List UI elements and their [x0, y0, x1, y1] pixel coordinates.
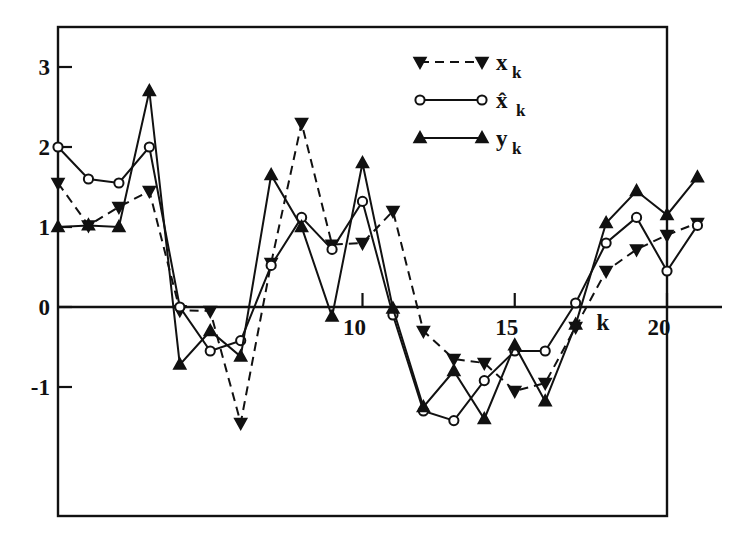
data-point-circle — [449, 416, 458, 425]
data-point-circle — [327, 245, 336, 254]
data-point-circle — [358, 197, 367, 206]
data-point-circle — [693, 221, 702, 230]
legend-subscript: k — [512, 139, 522, 158]
x-tick-label: 10 — [343, 315, 366, 340]
data-point-circle — [477, 95, 486, 104]
chart-background — [0, 0, 749, 542]
data-point-circle — [415, 95, 424, 104]
line-chart: 3210-1 101520 k xkx̂kyk — [0, 0, 749, 542]
data-point-circle — [541, 346, 550, 355]
x-axis-title: k — [597, 310, 610, 335]
data-point-circle — [632, 213, 641, 222]
data-point-circle — [175, 302, 184, 311]
legend-label: x̂ — [496, 88, 508, 113]
legend-label: y — [496, 126, 508, 151]
chart-container: 3210-1 101520 k xkx̂kyk — [0, 0, 749, 542]
data-point-circle — [480, 376, 489, 385]
legend-subscript: k — [516, 101, 526, 120]
data-point-circle — [114, 178, 123, 187]
data-point-circle — [662, 266, 671, 275]
y-tick-label: 3 — [39, 55, 51, 80]
y-tick-label: 2 — [39, 135, 51, 160]
data-point-circle — [145, 142, 154, 151]
data-point-circle — [84, 174, 93, 183]
legend-label: x — [496, 50, 508, 75]
data-point-circle — [602, 238, 611, 247]
y-tick-label: 1 — [39, 215, 51, 240]
x-tick-label: 20 — [648, 315, 671, 340]
y-tick-label: -1 — [31, 375, 50, 400]
x-tick-label: 15 — [495, 315, 518, 340]
legend-subscript: k — [512, 63, 522, 82]
data-point-circle — [53, 142, 62, 151]
data-point-circle — [206, 346, 215, 355]
y-tick-label: 0 — [39, 295, 51, 320]
data-point-circle — [267, 261, 276, 270]
data-point-circle — [571, 298, 580, 307]
